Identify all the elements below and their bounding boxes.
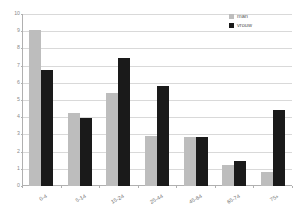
bar-man-0-4 [29, 30, 41, 186]
y-tick-mark [21, 48, 23, 49]
bar-vrouw-75+ [273, 110, 285, 186]
legend-label: man [237, 13, 248, 19]
bars-layer [22, 14, 292, 186]
legend-item-vrouw: vrouw [229, 21, 289, 29]
bar-vrouw-0-4 [41, 70, 53, 186]
bar-group [106, 14, 130, 186]
bar-vrouw-15-24 [118, 58, 130, 186]
bar-group [145, 14, 169, 186]
y-tick-label: 6 [4, 80, 20, 85]
x-tick-label-45-64: 45-64 [178, 193, 202, 210]
y-tick-mark [21, 134, 23, 135]
x-tick-mark [215, 186, 216, 188]
y-tick-mark [21, 66, 23, 67]
x-tick-label-15-24: 15-24 [101, 193, 125, 210]
x-tick-label-0-4: 0-4 [24, 193, 48, 210]
y-tick-label: 8 [4, 46, 20, 51]
legend-swatch-icon [229, 23, 234, 28]
x-tick-label-65-74: 65-74 [217, 193, 241, 210]
bar-group [222, 14, 246, 186]
y-tick-label: 10 [4, 11, 20, 16]
y-tick-label: 4 [4, 115, 20, 120]
bar-man-15-24 [106, 93, 118, 186]
bar-man-5-14 [68, 113, 80, 186]
bar-group [184, 14, 208, 186]
bar-vrouw-5-14 [80, 118, 92, 186]
bar-man-45-64 [184, 137, 196, 186]
x-tick-mark [61, 186, 62, 188]
y-axis: 012345678910 [0, 14, 20, 186]
y-tick-label: 1 [4, 166, 20, 171]
bar-vrouw-25-44 [157, 86, 169, 186]
y-tick-label: 7 [4, 63, 20, 68]
bar-chart: 012345678910 0-45-1415-2425-4445-6465-74… [0, 0, 301, 217]
x-axis: 0-45-1415-2425-4445-6465-7475+ [22, 188, 292, 216]
y-tick-mark [21, 186, 23, 187]
y-tick-label: 5 [4, 97, 20, 102]
bar-group [29, 14, 53, 186]
x-tick-label-5-14: 5-14 [63, 193, 87, 210]
y-tick-mark [21, 83, 23, 84]
legend-swatch-icon [229, 14, 234, 19]
bar-vrouw-65-74 [234, 161, 246, 186]
y-tick-label: 9 [4, 29, 20, 34]
y-tick-label: 2 [4, 149, 20, 154]
y-tick-mark [21, 31, 23, 32]
y-tick-mark [21, 169, 23, 170]
y-tick-label: 0 [4, 183, 20, 188]
bar-group [68, 14, 92, 186]
y-tick-mark [21, 152, 23, 153]
x-tick-mark [99, 186, 100, 188]
x-tick-mark [292, 186, 293, 188]
bar-vrouw-45-64 [196, 137, 208, 186]
legend-label: vrouw [237, 22, 252, 28]
legend: manvrouw [229, 12, 289, 30]
y-tick-mark [21, 100, 23, 101]
y-tick-mark [21, 117, 23, 118]
y-tick-mark [21, 14, 23, 15]
legend-item-man: man [229, 12, 289, 20]
bar-group [261, 14, 285, 186]
x-tick-mark [253, 186, 254, 188]
y-tick-label: 3 [4, 132, 20, 137]
x-tick-mark [176, 186, 177, 188]
bar-man-25-44 [145, 136, 157, 186]
x-tick-mark [138, 186, 139, 188]
bar-man-65-74 [222, 165, 234, 187]
x-tick-label-25-44: 25-44 [140, 193, 164, 210]
bar-man-75+ [261, 172, 273, 186]
x-tick-label-75+: 75+ [256, 193, 280, 210]
